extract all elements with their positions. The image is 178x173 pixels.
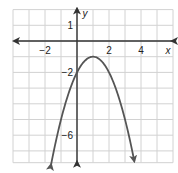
x-tick-label: 4 xyxy=(138,45,144,56)
parabola-graph: −2241−2−6xy xyxy=(0,0,178,173)
x-axis-label: x xyxy=(165,45,172,56)
x-tick-label: 2 xyxy=(106,45,112,56)
y-tick-label: 1 xyxy=(67,20,73,31)
y-tick-label: −6 xyxy=(62,130,74,141)
y-tick-label: −2 xyxy=(62,67,74,78)
grid-lines xyxy=(13,10,173,163)
axis-labels: −2241−2−6xy xyxy=(39,8,171,141)
y-axis-label: y xyxy=(82,8,89,19)
x-tick-label: −2 xyxy=(39,45,51,56)
